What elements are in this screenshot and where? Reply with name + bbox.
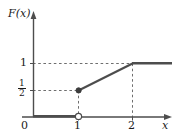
y-tick-label-one-half: 1 2 [18, 79, 26, 99]
cdf-figure: F(x) x 0 1 2 1 1 2 [0, 0, 177, 135]
closed-dot-marker-icon [76, 88, 81, 93]
curve-segment-ramp [79, 64, 133, 91]
x-axis-label: x [162, 120, 168, 131]
fraction-one-half: 1 2 [18, 79, 26, 99]
x-tick-label-2: 2 [128, 120, 135, 131]
y-axis-arrow-icon [31, 11, 37, 19]
y-tick-label-one: 1 [20, 57, 27, 68]
fraction-denominator: 2 [18, 89, 26, 98]
x-tick-label-1: 1 [74, 120, 81, 131]
fraction-numerator: 1 [18, 79, 26, 88]
y-axis-label: F(x) [8, 8, 30, 19]
x-tick-label-0: 0 [21, 120, 28, 131]
